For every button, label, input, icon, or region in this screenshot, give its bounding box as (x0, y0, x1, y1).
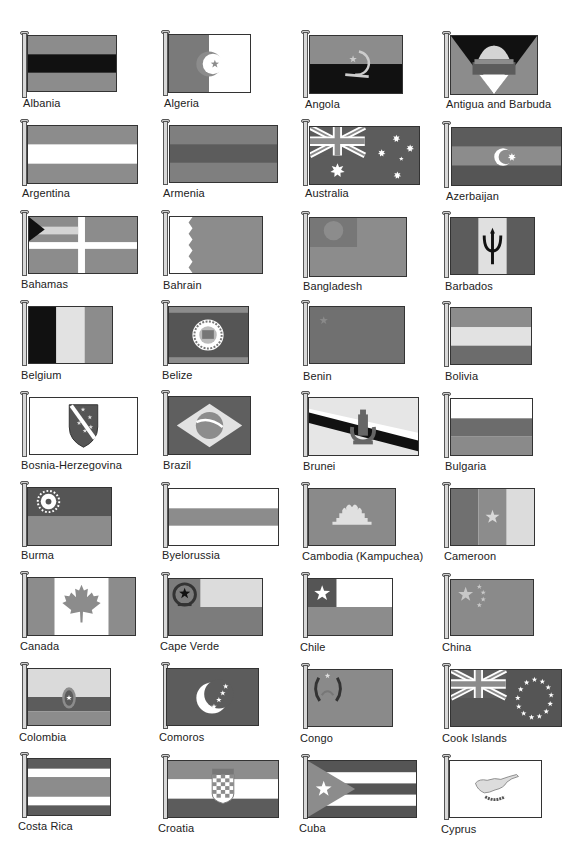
flag-label: Costa Rica (18, 820, 73, 832)
flag-costa-rica (27, 758, 111, 816)
flag-comoros (166, 668, 259, 726)
flag-brunei (308, 397, 419, 456)
flag-byelorussia (168, 488, 279, 546)
flag-belize (168, 306, 249, 364)
flagpole (22, 302, 27, 366)
flag-label: Chile (300, 641, 326, 653)
flag-label: Bulgaria (445, 460, 486, 472)
flag-croatia (167, 760, 279, 818)
flag-label: Bahrain (163, 279, 202, 291)
flag-burma (27, 487, 112, 546)
flag-cambodia (308, 488, 396, 546)
flag-label: Azerbaijan (446, 190, 499, 202)
flag-label: Belize (162, 369, 193, 381)
flag-antigua-and-barbuda (450, 35, 538, 95)
flag-label: Algeria (164, 97, 199, 109)
flag-label: Brazil (163, 459, 191, 471)
flagpole (303, 302, 308, 366)
flagpole (22, 393, 27, 457)
flag-colombia (27, 668, 111, 726)
flag-angola (309, 35, 403, 94)
flagpole (22, 212, 27, 276)
flag-label: Armenia (163, 187, 205, 199)
flag-label: Australia (305, 187, 349, 199)
flagpole (163, 121, 168, 185)
flag-label: Bahamas (21, 278, 68, 290)
flag-label: Burma (21, 549, 54, 561)
flag-argentina (27, 125, 138, 184)
flag-australia (309, 126, 420, 185)
flag-armenia (169, 125, 278, 183)
flag-bangladesh (309, 217, 407, 277)
flag-label: Barbados (445, 280, 493, 292)
flagpole (444, 484, 449, 548)
flag-azerbaijan (451, 127, 562, 186)
flag-china (450, 579, 534, 636)
flagpole (303, 121, 308, 186)
flag-cameroon (450, 488, 535, 546)
flag-label: Congo (300, 732, 333, 744)
flagpole (444, 394, 449, 458)
flag-label: Albania (23, 97, 60, 109)
flag-congo (307, 669, 393, 727)
flagpole (444, 303, 449, 367)
flag-label: Bolivia (445, 370, 478, 382)
flag-label: Argentina (22, 187, 70, 199)
flag-cook-islands (450, 669, 562, 727)
flag-barbados (450, 217, 535, 275)
flagpole (444, 123, 449, 188)
flagpole (444, 213, 449, 278)
flagpole (444, 665, 449, 729)
flag-label: China (442, 641, 471, 653)
flag-bolivia (450, 307, 532, 365)
flag-label: Cyprus (441, 823, 476, 835)
flag-chile (307, 578, 393, 636)
flagpole (303, 213, 308, 278)
flag-label: Belgium (21, 369, 61, 381)
flag-canada (27, 577, 136, 636)
flagpole (444, 33, 449, 98)
flag-cuba (307, 760, 417, 818)
flag-label: Bangladesh (303, 280, 362, 292)
flag-belgium (28, 306, 113, 364)
flag-label: Croatia (158, 822, 194, 834)
flag-label: Angola (305, 98, 340, 110)
flagpole (303, 32, 308, 98)
flagpole (444, 575, 449, 639)
flagpole (163, 212, 168, 276)
flag-label: Cameroon (444, 550, 496, 562)
flag-label: Benin (303, 370, 332, 382)
flag-bahrain (169, 216, 263, 274)
flag-label: Bosnia-Herzegovina (21, 459, 122, 471)
flag-bosnia-herzegovina (29, 397, 138, 455)
flag-label: Colombia (19, 731, 66, 743)
flag-bahamas (28, 216, 138, 274)
flag-label: Brunei (303, 460, 335, 472)
flag-algeria (168, 34, 251, 93)
flag-brazil (168, 396, 251, 455)
flag-cape-verde (168, 578, 263, 636)
flag-albania (27, 35, 117, 92)
flag-label: Cape Verde (160, 640, 219, 652)
flag-label: Canada (20, 640, 59, 652)
flag-benin (309, 306, 405, 364)
flag-cyprus (449, 760, 542, 818)
flag-label: Cook Islands (442, 732, 507, 744)
flag-label: Comoros (159, 731, 204, 743)
flag-bulgaria (450, 398, 533, 456)
flag-label: Cuba (299, 822, 326, 834)
flag-label: Antigua and Barbuda (446, 98, 551, 110)
flag-label: Byelorussia (162, 549, 220, 561)
flag-label: Cambodia (Kampuchea) (302, 550, 423, 562)
